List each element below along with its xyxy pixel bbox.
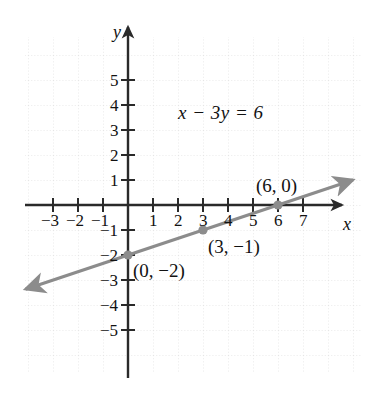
coordinate-plane [0, 0, 379, 400]
x-tick-label-6: 6 [274, 212, 283, 229]
y-tick-label-1: 1 [110, 172, 119, 189]
y-tick-label-neg4: −4 [100, 297, 118, 314]
data-point-6-0 [273, 200, 282, 209]
equation-label: x − 3y = 6 [178, 103, 264, 122]
x-tick-label-1: 1 [149, 212, 158, 229]
graph-figure: −3 −2 −1 1 2 3 4 5 6 7 5 4 3 2 1 −1 −2 −… [0, 0, 379, 400]
x-tick-label-3: 3 [199, 212, 208, 229]
x-tick-label-7: 7 [299, 212, 308, 229]
y-tick-label-neg5: −5 [100, 322, 118, 339]
x-tick-label-2: 2 [174, 212, 183, 229]
y-axis-label: y [113, 23, 121, 41]
point-label-3-neg1: (3, −1) [208, 237, 260, 256]
point-label-6-0: (6, 0) [256, 176, 297, 195]
x-tick-label-5: 5 [249, 212, 258, 229]
y-tick-label-neg3: −3 [100, 272, 118, 289]
y-tick-label-5: 5 [110, 72, 119, 89]
x-tick-label-neg3: −3 [41, 212, 59, 229]
x-tick-label-neg2: −2 [66, 212, 84, 229]
x-tick-label-4: 4 [224, 212, 233, 229]
x-axis-label: x [343, 215, 351, 233]
y-tick-label-4: 4 [110, 97, 119, 114]
y-tick-label-neg1: −1 [100, 222, 118, 239]
y-tick-label-3: 3 [110, 122, 119, 139]
data-point-0-neg2 [123, 250, 132, 259]
y-tick-label-neg2: −2 [100, 247, 118, 264]
y-tick-label-2: 2 [110, 147, 119, 164]
point-label-0-neg2: (0, −2) [133, 261, 185, 280]
